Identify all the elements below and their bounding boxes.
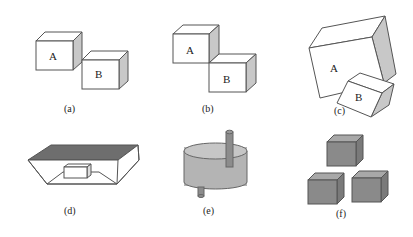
caption-f: (f) xyxy=(336,208,346,220)
caption-c: (c) xyxy=(334,105,345,117)
figure-canvas: A B (a) A B (b) A xyxy=(0,0,413,237)
panel-d: (d) xyxy=(28,145,139,217)
panel-b: A B (b) xyxy=(173,25,256,115)
cylinder-disk xyxy=(184,143,247,189)
panel-a: A B (a) xyxy=(36,32,128,115)
label-a: A xyxy=(49,50,57,62)
inner-box xyxy=(64,164,91,178)
caption-d: (d) xyxy=(64,205,76,217)
label-a: A xyxy=(186,44,194,56)
caption-e: (e) xyxy=(203,205,214,217)
cube-bottom-right xyxy=(352,171,388,202)
cube-b xyxy=(82,51,128,89)
label-a: A xyxy=(330,62,338,74)
panel-e: (e) xyxy=(184,130,247,217)
label-b: B xyxy=(95,68,102,80)
cube-top xyxy=(327,135,363,166)
panel-f: (f) xyxy=(308,135,388,220)
cube-b xyxy=(209,54,256,92)
panel-c: A B (c) xyxy=(309,16,396,117)
label-b: B xyxy=(223,73,230,85)
cube-bottom-left xyxy=(308,173,344,204)
cube-a xyxy=(36,32,82,70)
caption-a: (a) xyxy=(64,103,75,115)
label-b: B xyxy=(355,91,362,103)
caption-b: (b) xyxy=(202,103,214,115)
cube-a xyxy=(173,25,219,63)
